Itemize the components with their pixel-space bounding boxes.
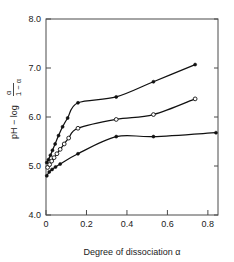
data-point-marker: [114, 118, 118, 122]
data-point-marker: [51, 168, 54, 171]
y-axis-title-main: pH − log: [9, 105, 19, 139]
x-tick-marks: [46, 210, 208, 215]
plot-frame: [46, 19, 218, 215]
data-line: [47, 133, 216, 176]
x-axis-title: Degree of dissociation α: [84, 247, 181, 257]
y-tick-marks: [46, 19, 218, 215]
y-axis-fraction-numerator: α: [4, 90, 13, 95]
data-point-marker: [57, 134, 60, 137]
data-point-marker: [214, 131, 217, 134]
data-point-marker: [66, 116, 69, 119]
data-point-marker: [76, 101, 79, 104]
x-tick-label: 0.4: [121, 219, 134, 229]
y-axis-fraction-denominator: 1 − α: [14, 78, 23, 96]
data-point-marker: [115, 95, 118, 98]
data-point-marker: [193, 97, 197, 101]
plot-border: [46, 19, 218, 215]
data-point-marker: [51, 149, 54, 152]
data-point-marker: [54, 165, 57, 168]
y-tick-label: 5.0: [28, 161, 41, 171]
data-point-marker: [152, 135, 155, 138]
y-tick-label: 7.0: [28, 63, 41, 73]
data-series: [45, 63, 196, 164]
data-point-marker: [194, 63, 197, 66]
data-point-marker: [152, 80, 155, 83]
x-tick-label: 0: [43, 219, 48, 229]
chart-plot: 00.20.40.60.8 4.05.06.07.08.0 Degree of …: [0, 0, 234, 262]
x-tick-label: 0.2: [80, 219, 93, 229]
y-tick-labels: 4.05.06.07.08.0: [28, 14, 41, 220]
data-point-marker: [76, 152, 79, 155]
y-axis-title-fraction: α 1 − α: [4, 78, 23, 96]
data-series: [45, 131, 217, 177]
data-point-marker: [52, 156, 56, 160]
data-point-marker: [67, 136, 71, 140]
data-point-marker: [59, 163, 62, 166]
data-point-marker: [49, 154, 52, 157]
y-tick-label: 8.0: [28, 14, 41, 24]
x-tick-labels: 00.20.40.60.8: [43, 219, 214, 229]
chart-figure: 00.20.40.60.8 4.05.06.07.08.0 Degree of …: [0, 0, 234, 262]
y-tick-label: 6.0: [28, 112, 41, 122]
data-point-marker: [55, 152, 59, 156]
data-point-marker: [76, 126, 80, 130]
data-series-group: [45, 63, 217, 177]
data-point-marker: [61, 125, 64, 128]
data-line: [47, 65, 195, 163]
data-point-marker: [48, 170, 51, 173]
data-line: [48, 99, 196, 168]
data-point-marker: [54, 142, 57, 145]
data-point-marker: [58, 147, 62, 151]
data-point-marker: [152, 113, 156, 117]
x-tick-label: 0.6: [161, 219, 174, 229]
data-point-marker: [62, 142, 66, 146]
data-point-marker: [45, 174, 48, 177]
data-point-marker: [50, 159, 54, 163]
x-tick-label: 0.8: [202, 219, 215, 229]
data-point-marker: [115, 135, 118, 138]
y-axis-title-group: pH − log α 1 − α: [4, 78, 23, 139]
y-tick-label: 4.0: [28, 210, 41, 220]
